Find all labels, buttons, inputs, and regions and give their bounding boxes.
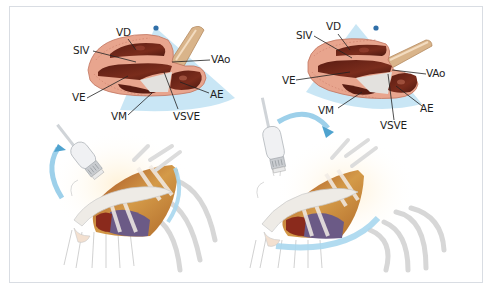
label-siv: SIV	[73, 45, 89, 56]
label-vd: VD	[116, 27, 131, 38]
panel-right: VD SIV VAo VE AE VM VSVE	[246, 0, 493, 290]
probe-marker-dot	[153, 25, 158, 30]
heart-section	[308, 39, 432, 99]
probe-marker-dot	[373, 25, 378, 30]
label-vao: VAo	[211, 54, 230, 65]
label-ae: AE	[420, 103, 433, 114]
label-ae: AE	[210, 89, 223, 100]
label-vm: VM	[318, 105, 334, 116]
label-vd: VD	[326, 21, 341, 32]
right-illustration	[246, 0, 493, 290]
label-vsve: VSVE	[173, 111, 200, 122]
label-vsve: VSVE	[380, 120, 407, 131]
label-siv: SIV	[296, 30, 312, 41]
left-illustration	[0, 0, 246, 290]
ultrasound-probe	[255, 96, 288, 174]
label-vm: VM	[111, 111, 127, 122]
label-ve: VE	[282, 75, 295, 86]
rotation-arrow-arc	[278, 114, 328, 128]
label-ve: VE	[72, 92, 85, 103]
panel-left: VD SIV VAo VE AE VM VSVE	[0, 0, 246, 290]
label-vao: VAo	[426, 68, 445, 79]
